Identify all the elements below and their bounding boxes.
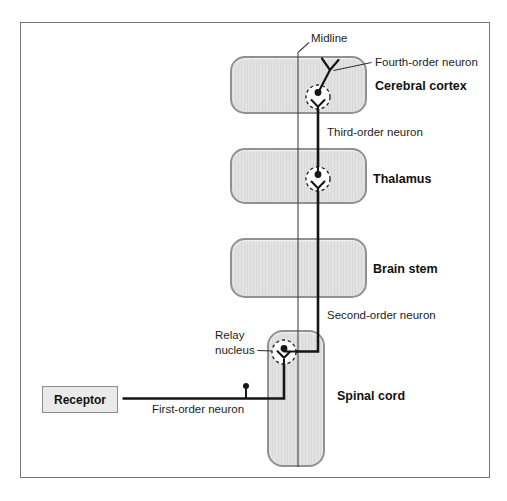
midline-label: Midline <box>311 32 347 45</box>
receptor-label: Receptor <box>54 393 106 407</box>
brain-stem-label: Brain stem <box>373 263 438 276</box>
cerebral-cortex-label: Cerebral cortex <box>375 80 467 93</box>
first-order-neuron-label: First-order neuron <box>152 403 244 416</box>
fourth-order-neuron-label: Fourth-order neuron <box>375 56 478 69</box>
third-order-neuron-label: Third-order neuron <box>327 126 423 139</box>
receptor-box: Receptor <box>42 386 118 413</box>
figure-canvas: Midline Fourth-order neuron Cerebral cor… <box>0 0 507 501</box>
relay-nucleus-label: Relay nucleus <box>215 328 255 358</box>
relay-nucleus-label-line2: nucleus <box>215 343 255 358</box>
region-spinal-cord <box>267 330 325 467</box>
second-order-neuron-label: Second-order neuron <box>327 309 436 322</box>
region-thalamus <box>230 148 367 204</box>
relay-nucleus-label-line1: Relay <box>215 328 255 343</box>
spinal-cord-label: Spinal cord <box>337 390 405 403</box>
region-cerebral-cortex <box>230 56 367 114</box>
region-brain-stem <box>230 238 367 298</box>
thalamus-label: Thalamus <box>373 173 431 186</box>
